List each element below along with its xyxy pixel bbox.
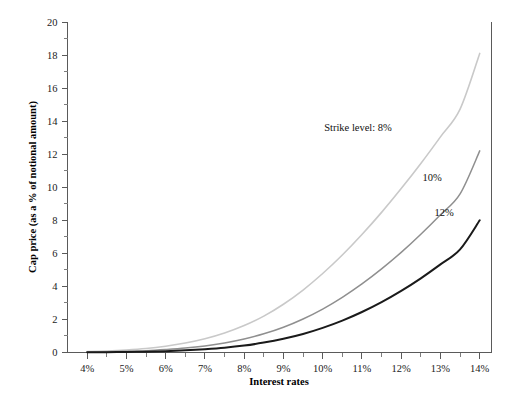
y-tick-label: 20 bbox=[47, 17, 58, 28]
x-tick-label: 11% bbox=[353, 363, 372, 374]
y-tick-label: 10 bbox=[47, 182, 58, 193]
x-axis-tick-labels: 4%5%6%7%8%9%10%11%12%13%14% bbox=[80, 363, 489, 374]
series-annotation-label: 10% bbox=[422, 172, 442, 183]
y-tick-label: 6 bbox=[52, 248, 57, 259]
series-annotation-label: Strike level: 8% bbox=[324, 122, 392, 133]
y-tick-label: 12 bbox=[47, 149, 58, 160]
x-axis-title: Interest rates bbox=[249, 376, 309, 387]
series-annotation-label: 12% bbox=[434, 207, 454, 218]
x-tick-label: 6% bbox=[159, 363, 173, 374]
x-tick-label: 13% bbox=[431, 363, 451, 374]
y-tick-label: 2 bbox=[52, 314, 57, 325]
x-tick-label: 8% bbox=[237, 363, 251, 374]
x-tick-label: 10% bbox=[313, 363, 333, 374]
x-tick-label: 9% bbox=[276, 363, 290, 374]
y-tick-label: 14 bbox=[47, 116, 58, 127]
y-tick-label: 16 bbox=[47, 83, 58, 94]
plot-frame bbox=[68, 22, 493, 353]
y-axis-ticks bbox=[62, 22, 68, 353]
y-axis-title: Cap price (as a % of notional amount) bbox=[27, 101, 39, 273]
y-tick-label: 8 bbox=[52, 215, 57, 226]
x-tick-label: 14% bbox=[470, 363, 490, 374]
series-line bbox=[87, 53, 480, 351]
series-line bbox=[87, 151, 480, 352]
series-line bbox=[87, 220, 480, 352]
chart-figure: 02468101214161820 4%5%6%7%8%9%10%11%12%1… bbox=[0, 0, 514, 413]
x-tick-label: 5% bbox=[119, 363, 133, 374]
y-axis-tick-labels: 02468101214161820 bbox=[47, 17, 58, 359]
y-tick-label: 18 bbox=[47, 50, 58, 61]
x-tick-label: 12% bbox=[392, 363, 412, 374]
chart-canvas: 02468101214161820 4%5%6%7%8%9%10%11%12%1… bbox=[0, 0, 514, 413]
x-tick-label: 7% bbox=[198, 363, 212, 374]
y-tick-label: 4 bbox=[52, 281, 58, 292]
x-tick-label: 4% bbox=[80, 363, 94, 374]
series-lines bbox=[87, 53, 480, 352]
y-tick-label: 0 bbox=[52, 347, 57, 358]
x-axis-ticks bbox=[87, 353, 480, 359]
